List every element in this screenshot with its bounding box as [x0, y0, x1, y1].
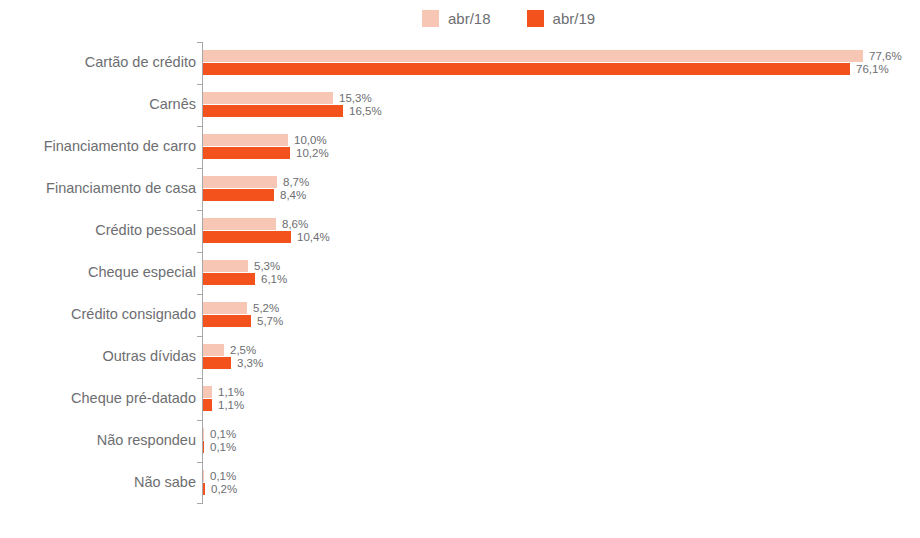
legend-item-abr-19: abr/19	[527, 10, 596, 27]
value-label: 2,5%	[230, 343, 256, 357]
bar-abr-18	[203, 218, 276, 230]
value-label: 16,5%	[349, 104, 382, 118]
plot-area: 77,6%76,1%15,3%16,5%10,0%10,2%8,7%8,4%8,…	[202, 42, 915, 504]
axis-tick	[197, 168, 203, 169]
bar-abr-19	[203, 147, 290, 159]
bar-abr-18	[203, 176, 277, 188]
value-label: 0,2%	[211, 482, 237, 496]
value-label: 1,1%	[218, 385, 244, 399]
axis-tick	[197, 294, 203, 295]
bar-abr-19	[203, 357, 231, 369]
bar-abr-18	[203, 344, 224, 356]
axis-tick	[197, 126, 203, 127]
bar-abr-18	[203, 428, 204, 440]
axis-tick	[197, 42, 203, 43]
legend-swatch-icon	[422, 10, 439, 27]
value-label: 10,4%	[297, 230, 330, 244]
bar-abr-19	[203, 441, 204, 453]
legend: abr/18abr/19	[422, 10, 595, 27]
axis-tick	[197, 378, 203, 379]
legend-swatch-icon	[527, 10, 544, 27]
category-label: Cheque pré-datado	[0, 390, 196, 406]
value-label: 6,1%	[261, 272, 287, 286]
axis-tick	[197, 420, 203, 421]
category-label: Financiamento de casa	[0, 180, 196, 196]
category-label: Carnês	[0, 96, 196, 112]
bar-abr-19	[203, 315, 251, 327]
bar-abr-19	[203, 231, 291, 243]
value-label: 5,2%	[253, 301, 279, 315]
category-label: Outras dívidas	[0, 348, 196, 364]
category-label: Não sabe	[0, 474, 196, 490]
axis-tick	[197, 462, 203, 463]
axis-tick	[197, 252, 203, 253]
value-label: 5,7%	[257, 314, 283, 328]
bar-abr-18	[203, 386, 212, 398]
axis-tick	[197, 503, 203, 504]
category-axis-labels: Cartão de créditoCarnêsFinanciamento de …	[0, 42, 196, 504]
value-label: 8,7%	[283, 175, 309, 189]
category-label: Não respondeu	[0, 432, 196, 448]
value-label: 8,4%	[280, 188, 306, 202]
bar-abr-18	[203, 470, 204, 482]
category-label: Crédito consignado	[0, 306, 196, 322]
bar-abr-18	[203, 260, 248, 272]
legend-label: abr/18	[448, 10, 491, 27]
value-label: 0,1%	[210, 427, 236, 441]
bar-abr-18	[203, 134, 288, 146]
axis-tick	[197, 210, 203, 211]
value-label: 10,0%	[294, 133, 327, 147]
category-label: Cartão de crédito	[0, 54, 196, 70]
value-label: 0,1%	[210, 469, 236, 483]
bar-abr-18	[203, 92, 333, 104]
value-label: 1,1%	[218, 398, 244, 412]
value-label: 0,1%	[210, 440, 236, 454]
bar-chart: abr/18abr/19 Cartão de créditoCarnêsFina…	[0, 0, 920, 538]
value-label: 8,6%	[282, 217, 308, 231]
bar-abr-19	[203, 399, 212, 411]
category-label: Crédito pessoal	[0, 222, 196, 238]
axis-tick	[197, 336, 203, 337]
value-label: 5,3%	[254, 259, 280, 273]
axis-tick	[197, 84, 203, 85]
bar-abr-18	[203, 302, 247, 314]
bar-abr-19	[203, 189, 274, 201]
value-label: 15,3%	[339, 91, 372, 105]
bar-abr-19	[203, 63, 850, 75]
value-label: 77,6%	[869, 49, 902, 63]
bar-abr-19	[203, 105, 343, 117]
category-label: Financiamento de carro	[0, 138, 196, 154]
category-label: Cheque especial	[0, 264, 196, 280]
bar-abr-19	[203, 483, 205, 495]
bar-abr-18	[203, 50, 863, 62]
value-label: 10,2%	[296, 146, 329, 160]
legend-label: abr/19	[553, 10, 596, 27]
value-label: 3,3%	[237, 356, 263, 370]
value-label: 76,1%	[856, 62, 889, 76]
legend-item-abr-18: abr/18	[422, 10, 491, 27]
bar-abr-19	[203, 273, 255, 285]
